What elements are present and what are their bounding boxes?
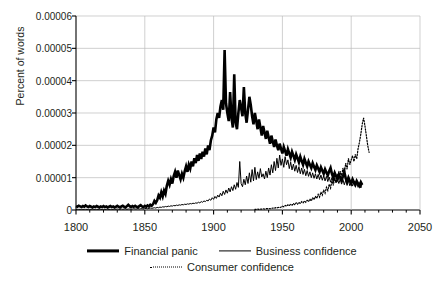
ngram-chart-figure: 0.00006 0.00005 0.00004 0.00003 0.00002 … <box>0 0 444 283</box>
x-tick-label: 1800 <box>64 221 88 233</box>
legend-item-consumer-confidence[interactable]: Consumer confidence <box>150 260 294 273</box>
legend-row: Consumer confidence <box>0 260 444 274</box>
legend-row: Financial panic Business confidence <box>0 243 444 257</box>
series-line <box>76 50 362 207</box>
x-tick-label: 1850 <box>133 221 157 233</box>
legend-line-thin-icon <box>219 246 251 256</box>
chart-legend: Financial panic Business confidence Cons… <box>0 243 444 273</box>
legend-item-business-confidence[interactable]: Business confidence <box>219 244 357 257</box>
legend-label: Consumer confidence <box>187 261 294 273</box>
x-tick-label: 2050 <box>408 221 432 233</box>
series-line <box>76 155 362 209</box>
x-tick-label: 1950 <box>270 221 294 233</box>
plot-area <box>0 0 444 283</box>
legend-line-thick-icon <box>87 246 119 256</box>
x-tick-label: 1900 <box>201 221 225 233</box>
legend-line-dotted-icon <box>150 262 182 272</box>
legend-label: Business confidence <box>256 245 357 257</box>
x-tick-label: 2000 <box>339 221 363 233</box>
legend-label: Financial panic <box>124 245 197 257</box>
legend-item-financial-panic[interactable]: Financial panic <box>87 244 197 257</box>
